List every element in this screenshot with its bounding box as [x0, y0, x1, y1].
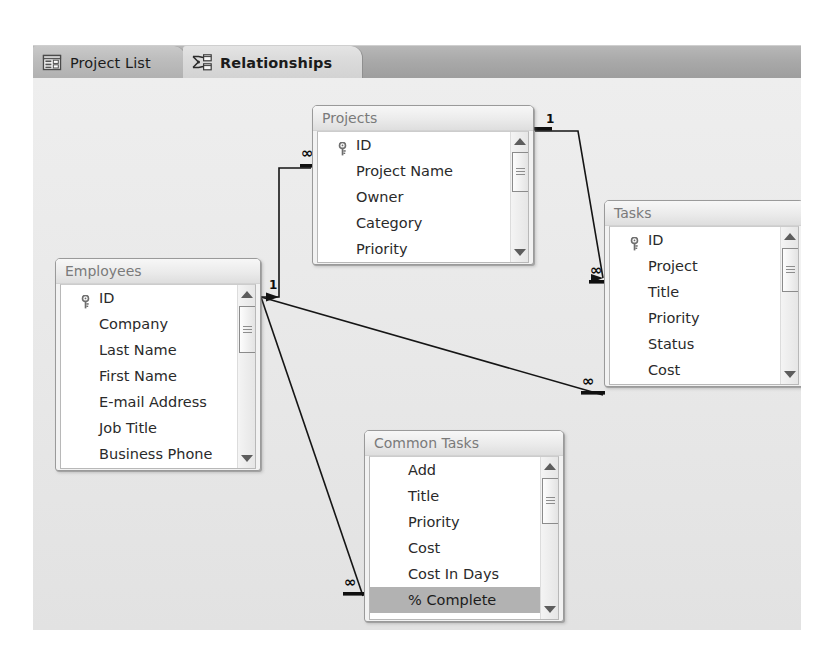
- field-row[interactable]: Add: [370, 457, 541, 483]
- field-label: ID: [99, 290, 114, 306]
- table-window-projects[interactable]: Projects ID Project Name Owner Category …: [312, 105, 534, 265]
- tab-strip: Project List Relationships: [33, 45, 801, 79]
- primary-key-icon: [337, 138, 348, 152]
- field-row[interactable]: First Name: [61, 363, 238, 389]
- table-field-list-employees[interactable]: ID Company Last Name First Name E-mail A…: [60, 284, 256, 469]
- field-row[interactable]: E-mail Address: [61, 389, 238, 415]
- field-row[interactable]: Project: [610, 253, 781, 279]
- cardinality-many-projects: ∞: [301, 146, 313, 161]
- scroll-up-button[interactable]: [781, 228, 798, 245]
- field-label: Add: [408, 462, 436, 478]
- scroll-up-button[interactable]: [541, 458, 558, 475]
- field-row[interactable]: Job Title: [61, 415, 238, 441]
- field-row[interactable]: Title: [370, 483, 541, 509]
- table-window-tasks[interactable]: Tasks ID Project Title Priority Status C…: [604, 200, 801, 387]
- field-label: Title: [648, 284, 679, 300]
- vertical-scrollbar[interactable]: [510, 132, 528, 262]
- field-label: Priority: [356, 241, 408, 257]
- scroll-up-button[interactable]: [511, 133, 528, 150]
- table-field-list-tasks[interactable]: ID Project Title Priority Status Cost: [609, 226, 799, 385]
- field-label: ID: [356, 137, 371, 153]
- table-window-common-tasks[interactable]: Common Tasks Add Title Priority Cost Cos…: [364, 430, 564, 622]
- field-row[interactable]: Priority: [318, 236, 511, 262]
- tab-project-list[interactable]: Project List: [33, 46, 186, 79]
- grip-icon: [243, 326, 252, 335]
- table-title-common-tasks[interactable]: Common Tasks: [365, 431, 563, 456]
- tab-relationships-label: Relationships: [220, 55, 332, 71]
- field-label: % Complete: [408, 592, 496, 608]
- scrollbar-thumb[interactable]: [782, 248, 799, 292]
- field-row[interactable]: Business Phone: [61, 441, 238, 467]
- table-title-tasks[interactable]: Tasks: [605, 201, 801, 226]
- field-label: Cost: [648, 362, 680, 378]
- scroll-down-button[interactable]: [511, 244, 528, 261]
- field-row[interactable]: Owner: [318, 184, 511, 210]
- field-row[interactable]: Cost: [370, 535, 541, 561]
- scrollbar-thumb[interactable]: [542, 478, 559, 524]
- grip-icon: [786, 266, 795, 275]
- table-title-employees[interactable]: Employees: [56, 259, 260, 284]
- vertical-scrollbar[interactable]: [780, 227, 798, 384]
- field-label: Business Phone: [99, 446, 212, 462]
- table-field-list-common-tasks[interactable]: Add Title Priority Cost Cost In Days % C…: [369, 456, 559, 620]
- field-row[interactable]: Cost: [610, 357, 781, 383]
- relationships-canvas[interactable]: ∞ 1 ∞ 1 ∞ ∞ Projects ID Project Name Own…: [33, 78, 801, 630]
- field-row[interactable]: Last Name: [61, 337, 238, 363]
- relationships-icon: [192, 54, 212, 71]
- field-row[interactable]: Priority: [610, 305, 781, 331]
- cardinality-one-employees: 1: [269, 278, 277, 292]
- vertical-scrollbar[interactable]: [237, 285, 255, 468]
- tab-relationships[interactable]: Relationships: [183, 46, 363, 79]
- field-label: Company: [99, 316, 168, 332]
- cardinality-many-common-tasks: ∞: [344, 575, 356, 590]
- cardinality-many-tasks-project: ∞: [590, 263, 602, 278]
- triangle-down-icon: [784, 371, 796, 378]
- field-row[interactable]: Company: [61, 311, 238, 337]
- grip-icon: [546, 497, 555, 506]
- field-label: Priority: [408, 514, 460, 530]
- field-row[interactable]: Title: [610, 279, 781, 305]
- field-row-selected[interactable]: % Complete: [370, 587, 541, 613]
- tab-project-list-label: Project List: [70, 55, 151, 71]
- field-label: Job Title: [99, 420, 157, 436]
- cardinality-many-tasks-employee: ∞: [582, 374, 594, 389]
- field-row[interactable]: Priority: [370, 509, 541, 535]
- field-row[interactable]: ID: [318, 132, 511, 158]
- field-label: First Name: [99, 368, 177, 384]
- scroll-up-button[interactable]: [238, 286, 255, 303]
- project-list-icon: [42, 54, 62, 71]
- triangle-up-icon: [514, 138, 526, 145]
- field-label: Title: [408, 488, 439, 504]
- field-row[interactable]: Category: [318, 210, 511, 236]
- field-row[interactable]: Status: [610, 331, 781, 357]
- field-row[interactable]: ID: [610, 227, 781, 253]
- field-label: Priority: [648, 310, 700, 326]
- table-title-projects[interactable]: Projects: [313, 106, 533, 131]
- cardinality-one-projects: 1: [546, 112, 554, 126]
- field-row[interactable]: Project Name: [318, 158, 511, 184]
- scroll-down-button[interactable]: [238, 450, 255, 467]
- triangle-down-icon: [544, 606, 556, 613]
- vertical-scrollbar[interactable]: [540, 457, 558, 619]
- field-label: Project: [648, 258, 698, 274]
- scroll-down-button[interactable]: [541, 601, 558, 618]
- field-label: Owner: [356, 189, 403, 205]
- primary-key-icon: [80, 291, 91, 305]
- scrollbar-thumb[interactable]: [512, 152, 529, 192]
- field-label: E-mail Address: [99, 394, 207, 410]
- table-window-employees[interactable]: Employees ID Company Last Name First Nam…: [55, 258, 261, 471]
- field-row[interactable]: ID: [61, 285, 238, 311]
- field-label: Status: [648, 336, 694, 352]
- scroll-down-button[interactable]: [781, 366, 798, 383]
- field-row[interactable]: Cost In Days: [370, 561, 541, 587]
- field-label: Cost In Days: [408, 566, 499, 582]
- field-label: ID: [648, 232, 663, 248]
- grip-icon: [516, 168, 525, 177]
- field-label: Last Name: [99, 342, 177, 358]
- table-field-list-projects[interactable]: ID Project Name Owner Category Priority: [317, 131, 529, 263]
- scrollbar-thumb[interactable]: [239, 306, 256, 353]
- field-label: Category: [356, 215, 422, 231]
- triangle-up-icon: [784, 233, 796, 240]
- field-label: Project Name: [356, 163, 453, 179]
- triangle-up-icon: [544, 463, 556, 470]
